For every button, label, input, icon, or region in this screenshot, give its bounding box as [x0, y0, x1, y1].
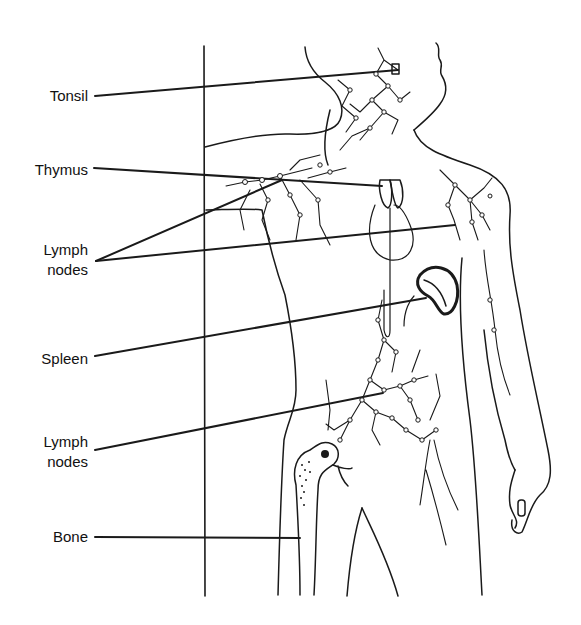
- leader-lines: [94, 70, 455, 538]
- leader-lymph-upper-a: [96, 180, 282, 261]
- thumb: [518, 500, 525, 516]
- spleen-organ: [418, 267, 458, 314]
- lymph-vessels: [370, 205, 414, 337]
- lymphatic-diagram: Tonsil Thymus Lymph nodes Spleen Lymph n…: [0, 0, 581, 625]
- leader-bone: [95, 537, 300, 538]
- leader-lymph-upper-b: [96, 225, 455, 261]
- thymus-organ: [379, 180, 402, 208]
- lymph-node-network: [226, 48, 510, 545]
- lymph-nodes: [243, 72, 497, 442]
- tonsil-organ: [392, 64, 399, 74]
- leader-tonsil: [95, 70, 398, 96]
- leader-spleen: [95, 298, 426, 356]
- vertical-divider-line: [204, 46, 205, 596]
- body-illustration: [0, 0, 581, 625]
- bone-femur: [295, 443, 352, 595]
